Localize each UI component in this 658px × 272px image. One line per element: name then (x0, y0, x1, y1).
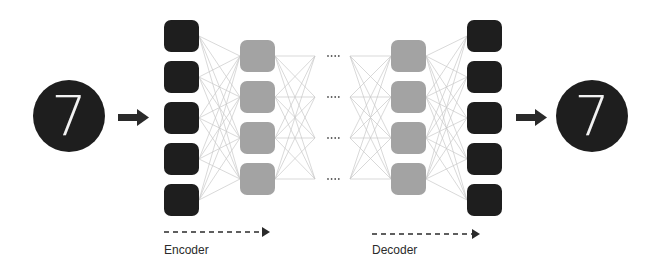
input-digit: 7 (33, 77, 105, 155)
input-node (164, 61, 199, 93)
output-layer (467, 20, 502, 216)
decoder-hidden-layer (391, 40, 426, 195)
output-node (467, 102, 502, 134)
encoder-hidden-layer (240, 40, 275, 195)
hidden-node (391, 40, 426, 72)
output-node (467, 61, 502, 93)
hidden-node (391, 122, 426, 154)
hidden-node (240, 122, 275, 154)
decoder-label: Decoder (372, 243, 417, 257)
output-node (467, 143, 502, 175)
input-node (164, 102, 199, 134)
decoder-direction-arrow-icon (372, 229, 480, 239)
hidden-node (391, 163, 426, 195)
input-layer (164, 20, 199, 216)
hidden-node (240, 163, 275, 195)
encoder-label: Encoder (164, 243, 209, 257)
encoder-direction-arrow-icon (164, 227, 270, 237)
output-arrow-icon (516, 109, 547, 126)
hidden-node (240, 81, 275, 113)
hidden-node (240, 40, 275, 72)
connection-edges (199, 36, 467, 200)
hidden-node (391, 81, 426, 113)
input-node (164, 184, 199, 216)
input-node (164, 143, 199, 175)
bottleneck-ellipsis (327, 55, 340, 180)
input-arrow-icon (118, 109, 149, 126)
output-node (467, 20, 502, 52)
output-digit: 7 (556, 77, 628, 155)
input-node (164, 20, 199, 52)
output-node (467, 184, 502, 216)
